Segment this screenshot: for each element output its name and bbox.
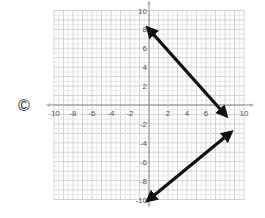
coordinate-plane: -10-8-6-4-2246810108642-2-4-6-8-10 bbox=[0, 0, 265, 218]
y-tick-label: -4 bbox=[140, 139, 148, 148]
x-tick-label: 4 bbox=[185, 109, 190, 118]
y-tick-label: 10 bbox=[138, 7, 147, 16]
x-tick-label: -8 bbox=[69, 109, 77, 118]
y-tick-label: 8 bbox=[143, 25, 148, 34]
y-tick-label: -2 bbox=[140, 120, 148, 129]
x-tick-label: -4 bbox=[107, 109, 115, 118]
x-tick-label: 10 bbox=[240, 109, 249, 118]
y-tick-label: 2 bbox=[143, 82, 148, 91]
y-tick-label: -6 bbox=[140, 158, 148, 167]
x-tick-label: 6 bbox=[204, 109, 209, 118]
y-tick-label: 4 bbox=[143, 63, 148, 72]
x-tick-label: -2 bbox=[126, 109, 134, 118]
x-tick-label: 2 bbox=[166, 109, 171, 118]
y-tick-label: 6 bbox=[143, 44, 148, 53]
y-tick-label: -10 bbox=[135, 196, 147, 205]
x-tick-label: -10 bbox=[48, 109, 60, 118]
y-tick-label: -8 bbox=[140, 177, 148, 186]
x-tick-label: -6 bbox=[88, 109, 96, 118]
